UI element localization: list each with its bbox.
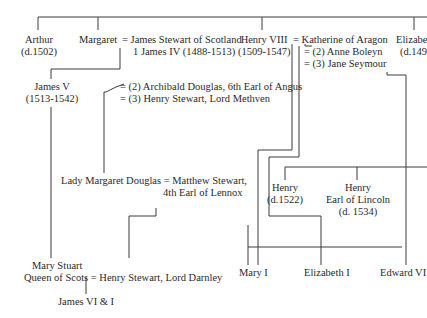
person-arthur: Arthur (d.1502) [14,34,64,58]
james-iv-name: = James Stewart of Scotland [122,34,242,46]
person-mary-stuart: Mary Stuart Queen of Scots = Henry Stewa… [24,260,222,284]
person-james-iv: = James Stewart of Scotland 1 James IV (… [122,34,242,58]
henry-lincoln-dates: (d. 1534) [318,206,398,218]
person-jane-seymour: = (3) Jane Seymour [304,58,387,70]
person-henry-1522: Henry (d.1522) [262,182,308,206]
james-iv-title: 1 James IV (1488-1513) [122,46,242,58]
henry-lincoln-title: Earl of Lincoln [318,194,398,206]
henry-1522-dates: (d.1522) [262,194,308,206]
person-james-vi: James VI & I [58,296,114,308]
margaret-douglas-name: Lady Margaret Douglas = Matthew Stewart, [61,175,247,187]
person-anne-boleyn: = (2) Anne Boleyn [304,46,383,58]
arthur-dates: (d.1502) [14,46,64,58]
mary-stuart-name: Mary Stuart [24,260,222,272]
person-henry-methven: = (3) Henry Stewart, Lord Methven [120,93,270,105]
person-margaret: Margaret [79,34,117,46]
person-elizabeth: Elizabe (d.149 [396,34,427,58]
mary-stuart-title: Queen of Scots = Henry Stewart, Lord Dar… [24,272,222,284]
james-v-name: James V [24,81,80,93]
henry-viii-dates: (1509-1547) [238,46,290,58]
lennox-title: 4th Earl of Lennox [61,187,247,199]
person-archibald-douglas: = (2) Archibald Douglas, 6th Earl of Ang… [120,81,302,93]
person-james-v: James V (1513-1542) [24,81,80,105]
person-henry-viii: Henry VIII (1509-1547) [238,34,290,58]
person-mary-i: Mary I [239,267,268,279]
person-edward-vi: Edward VI [380,267,426,279]
person-henry-lincoln: Henry Earl of Lincoln (d. 1534) [318,182,398,218]
henry-viii-name: Henry VIII [238,34,290,46]
henry-1522-name: Henry [262,182,308,194]
person-margaret-douglas: Lady Margaret Douglas = Matthew Stewart,… [61,175,247,199]
person-katherine: = Katherine of Aragon [293,34,388,46]
elizabeth-dates: (d.149 [396,46,427,58]
henry-lincoln-name: Henry [318,182,398,194]
arthur-name: Arthur [14,34,64,46]
elizabeth-name: Elizabe [396,34,427,46]
person-elizabeth-i: Elizabeth I [304,267,350,279]
james-v-dates: (1513-1542) [24,93,80,105]
